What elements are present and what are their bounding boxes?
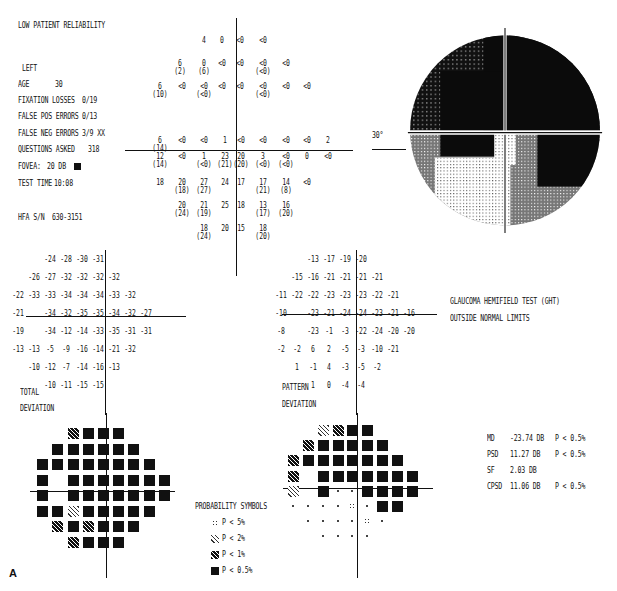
deviation-value: -21 bbox=[9, 310, 27, 318]
probability-symbol-s05 bbox=[377, 471, 388, 482]
probability-symbol-s05 bbox=[144, 506, 155, 517]
threshold-value: 0 bbox=[213, 37, 231, 45]
threshold-value: 18 bbox=[151, 179, 169, 187]
threshold-cell: <0 bbox=[232, 137, 250, 145]
threshold-cell: 17(21) bbox=[254, 179, 272, 195]
probability-symbol-s05 bbox=[128, 521, 139, 532]
threshold-previous: (21) bbox=[216, 161, 234, 169]
index-name: MD bbox=[487, 434, 495, 444]
degree-label: 30° bbox=[372, 131, 383, 141]
index-value: -23.74 DB bbox=[510, 434, 544, 444]
deviation-value: -27 bbox=[41, 274, 59, 282]
probability-symbol-s2 bbox=[318, 425, 329, 436]
serial-label: HFA S/N bbox=[18, 213, 45, 223]
deviation-value: -35 bbox=[89, 310, 107, 318]
probability-symbol-s05 bbox=[392, 486, 403, 497]
probability-symbol-s05 bbox=[377, 501, 388, 512]
fovea-value: 20 DB bbox=[47, 162, 66, 172]
threshold-cell: 25 bbox=[216, 202, 234, 210]
probability-symbol-s1 bbox=[288, 471, 299, 482]
falseneg-label: FALSE NEG ERRORS bbox=[18, 129, 79, 139]
threshold-cell: <0 bbox=[298, 137, 316, 145]
age-value: 30 bbox=[55, 80, 63, 90]
td-label-1: TOTAL bbox=[20, 388, 39, 398]
threshold-value: 20 bbox=[216, 225, 234, 233]
threshold-previous: (18) bbox=[173, 187, 191, 195]
probability-symbol-s05 bbox=[128, 459, 139, 470]
threshold-cell: 15 bbox=[232, 225, 250, 233]
threshold-cell: <0 bbox=[277, 137, 295, 145]
threshold-value: <0 bbox=[231, 83, 249, 91]
threshold-cell: <0 bbox=[213, 83, 231, 91]
deviation-value: -22 bbox=[9, 292, 27, 300]
deviation-value: -22 bbox=[304, 292, 322, 300]
deviation-value: -22 bbox=[368, 292, 386, 300]
deviation-value: -24 bbox=[336, 310, 354, 318]
deviation-value: -31 bbox=[137, 328, 155, 336]
reliability-warning: LOW PATIENT RELIABILITY bbox=[18, 21, 105, 31]
threshold-cell: 12(14) bbox=[151, 153, 169, 169]
probability-symbol-s05 bbox=[83, 459, 94, 470]
threshold-value: 18 bbox=[232, 202, 250, 210]
probability-symbol-s05 bbox=[98, 459, 109, 470]
deviation-value: -32 bbox=[57, 310, 75, 318]
deviation-value: -32 bbox=[89, 274, 107, 282]
probability-symbol-s05 bbox=[37, 475, 48, 486]
deviation-value: -21 bbox=[368, 274, 386, 282]
probability-symbol-s5 bbox=[349, 503, 355, 509]
deviation-value: -13 bbox=[304, 256, 322, 264]
threshold-cell: 18 bbox=[151, 179, 169, 187]
threshold-value: <0 bbox=[173, 83, 191, 91]
legend-title: PROBABILITY SYMBOLS bbox=[195, 502, 267, 512]
index-name: CPSD bbox=[487, 482, 502, 492]
threshold-value: 24 bbox=[216, 179, 234, 187]
threshold-previous: (<0) bbox=[195, 91, 213, 99]
probability-symbol-s05 bbox=[83, 537, 94, 548]
probability-symbol-s05 bbox=[333, 440, 344, 451]
threshold-cell: 18 bbox=[232, 202, 250, 210]
deviation-value: -21 bbox=[320, 310, 338, 318]
threshold-previous: (20) bbox=[232, 161, 250, 169]
deviation-value: -32 bbox=[105, 274, 123, 282]
deviation-value: -27 bbox=[137, 310, 155, 318]
threshold-previous: (14) bbox=[151, 161, 169, 169]
threshold-cell: <0(<0) bbox=[254, 83, 272, 99]
deviation-value: -16 bbox=[89, 364, 107, 372]
probability-symbol-dot bbox=[322, 535, 324, 537]
threshold-value: <0 bbox=[319, 153, 337, 161]
threshold-cell: 24 bbox=[216, 179, 234, 187]
deviation-value: -30 bbox=[73, 256, 91, 264]
threshold-cell: <0(<0) bbox=[277, 153, 295, 169]
probability-symbol-s1 bbox=[333, 425, 344, 436]
threshold-cell: <0 bbox=[173, 153, 191, 161]
legend-label: P < 5% bbox=[222, 518, 245, 528]
probability-symbol-s05 bbox=[113, 428, 124, 439]
threshold-previous: (21) bbox=[254, 187, 272, 195]
threshold-value: <0 bbox=[254, 137, 272, 145]
probability-symbol-s05 bbox=[377, 486, 388, 497]
threshold-cell: <0 bbox=[254, 37, 272, 45]
threshold-value: 15 bbox=[232, 225, 250, 233]
legend-label: P < 1% bbox=[222, 550, 245, 560]
legend-label: P < 2% bbox=[222, 534, 245, 544]
probability-symbol-dot bbox=[307, 505, 309, 507]
deviation-value: -34 bbox=[89, 292, 107, 300]
probability-symbol-dot bbox=[337, 505, 339, 507]
probability-symbol-dot bbox=[351, 535, 353, 537]
threshold-cell: 1 bbox=[216, 137, 234, 145]
threshold-value: <0 bbox=[277, 83, 295, 91]
legend-label: P < 0.5% bbox=[222, 566, 252, 576]
threshold-value: 1 bbox=[216, 137, 234, 145]
grayscale-h-axis-ext bbox=[372, 149, 406, 150]
deviation-value: -20 bbox=[352, 256, 370, 264]
pd-label-2: DEVIATION bbox=[282, 400, 316, 410]
threshold-previous: (10) bbox=[151, 91, 169, 99]
figure-label: A bbox=[9, 567, 17, 579]
index-name: PSD bbox=[487, 450, 498, 460]
probability-symbol-dot bbox=[292, 505, 294, 507]
probability-symbol-s2 bbox=[68, 506, 79, 517]
probability-symbol-s05 bbox=[68, 490, 79, 501]
probability-symbol-s05 bbox=[144, 475, 155, 486]
deviation-value: -33 bbox=[25, 292, 43, 300]
threshold-cell: 20 bbox=[216, 225, 234, 233]
